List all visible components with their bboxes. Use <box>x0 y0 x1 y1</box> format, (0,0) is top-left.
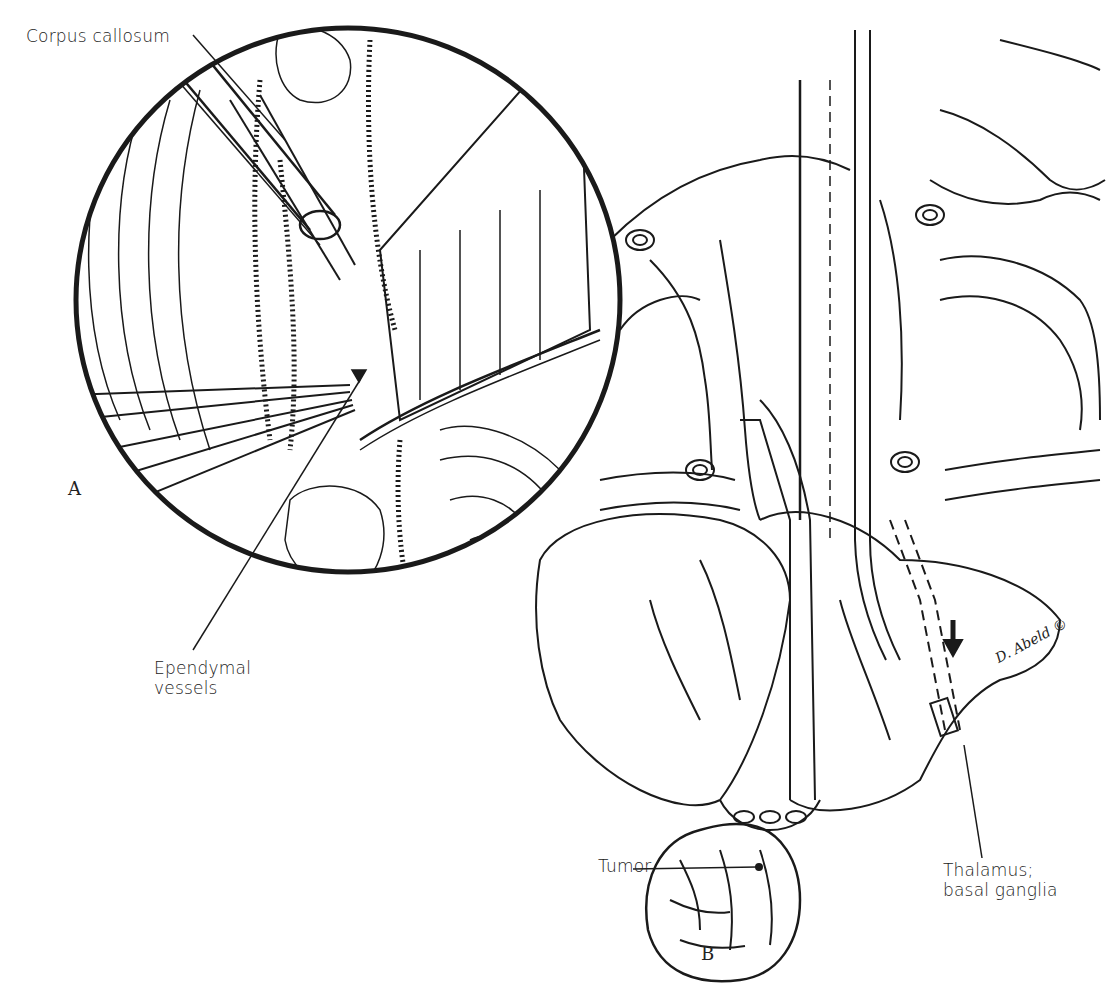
label-ependymal-line2: vessels <box>154 678 251 698</box>
panel-letter-b: B <box>701 943 714 964</box>
label-corpus-callosum: Corpus callosum <box>26 26 170 46</box>
label-thalamus-line2: basal ganglia <box>943 880 1058 900</box>
label-ependymal-line1: Ependymal <box>154 658 251 678</box>
medical-illustration <box>0 0 1109 988</box>
label-thalamus-line1: Thalamus; <box>943 860 1058 880</box>
panel-letter-a: A <box>68 478 81 499</box>
label-thalamus-basal-ganglia: Thalamus; basal ganglia <box>943 860 1058 900</box>
panel-b-drawing <box>536 30 1105 981</box>
panel-a-inset <box>70 25 620 600</box>
label-tumor: Tumor <box>598 856 652 876</box>
label-ependymal-vessels: Ependymal vessels <box>154 658 251 698</box>
